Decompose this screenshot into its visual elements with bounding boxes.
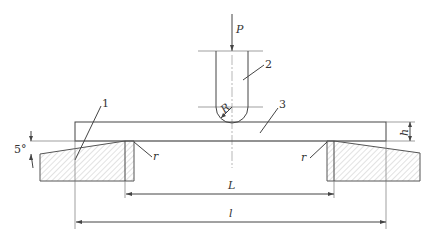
load-label: P bbox=[235, 23, 244, 36]
punch-radius-label: R bbox=[217, 101, 232, 117]
length-label: l bbox=[229, 207, 233, 220]
span-label: L bbox=[227, 179, 235, 192]
bending-test-diagram: P R 2 3 1 r r 5° h L bbox=[0, 0, 433, 245]
leader-3 bbox=[260, 108, 278, 133]
right-r-label: r bbox=[301, 151, 307, 164]
left-support bbox=[40, 141, 134, 181]
part-2-label: 2 bbox=[265, 58, 272, 71]
part-3-label: 3 bbox=[279, 98, 286, 111]
part-1-label: 1 bbox=[102, 97, 109, 110]
left-r-leader bbox=[134, 142, 152, 157]
load-arrow bbox=[230, 14, 234, 51]
left-r-label: r bbox=[153, 150, 159, 163]
specimen-beam bbox=[75, 122, 386, 141]
leader-2 bbox=[243, 65, 264, 80]
angle-label: 5° bbox=[14, 143, 27, 156]
thickness-label: h bbox=[398, 129, 411, 136]
right-r-leader bbox=[310, 142, 327, 158]
right-support bbox=[327, 141, 420, 181]
